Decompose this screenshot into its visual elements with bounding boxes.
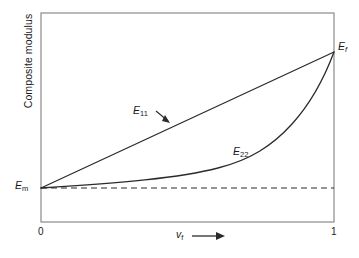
curve-label-e11-base: E xyxy=(133,104,140,116)
curve-label-em: Em xyxy=(15,179,28,193)
curve-label-em-subscript: m xyxy=(22,184,28,193)
curve-label-em-base: E xyxy=(15,179,22,191)
x-tick-label-1: 1 xyxy=(331,226,337,237)
curve-label-e22-base: E xyxy=(233,145,240,157)
plot-frame xyxy=(41,13,334,222)
curve-label-ef: Ef xyxy=(338,40,347,54)
curve-label-e11: E11 xyxy=(133,104,148,118)
curve-label-ef-subscript: f xyxy=(345,45,347,54)
x-tick-label-0: 0 xyxy=(38,226,44,237)
curve-label-e22: E22 xyxy=(233,145,248,159)
curve-label-ef-base: E xyxy=(338,40,345,52)
curve-label-e22-subscript: 22 xyxy=(240,150,248,159)
plot-canvas xyxy=(0,0,359,258)
x-axis-title-subscript: f xyxy=(181,233,183,242)
x-axis-title: vf xyxy=(176,228,183,242)
chart-figure: Composite modulus 0 1 vf E11 E22 Ef Em xyxy=(0,0,359,258)
curve-label-e11-subscript: 11 xyxy=(140,109,148,118)
x-axis-direction-arrow xyxy=(192,232,225,240)
